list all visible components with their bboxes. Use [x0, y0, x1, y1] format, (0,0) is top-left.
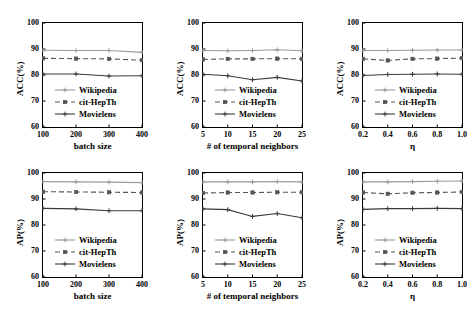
- legend-label: Wikipedia: [399, 235, 437, 245]
- legend-item-cit-hepth: cit-HepTh: [374, 246, 437, 258]
- legend-label: cit-HepTh: [399, 247, 436, 257]
- y-tick-label: 90: [338, 194, 359, 203]
- figure-canvas: 10090807060100200300400batch sizeACC(%)W…: [0, 0, 474, 314]
- x-tick-label: 1.0: [448, 280, 474, 289]
- subplot-ap-eta: 100908070600.20.40.60.81.0ηAP(%)Wikipedi…: [0, 0, 474, 314]
- legend: Wikipediacit-HepThMovielens: [374, 234, 437, 270]
- legend-item-wikipedia: Wikipedia: [374, 234, 437, 246]
- legend-label: Movielens: [399, 259, 436, 269]
- x-axis-label: η: [342, 291, 474, 301]
- y-tick-label: 70: [338, 246, 359, 255]
- legend-item-movielens: Movielens: [374, 258, 437, 270]
- y-tick-label: 100: [338, 168, 359, 177]
- legend-swatch-movielens: [374, 259, 396, 269]
- y-axis-label: AP(%): [335, 219, 345, 246]
- legend-swatch-cit-hepth: [374, 247, 396, 257]
- legend-swatch-wikipedia: [374, 235, 396, 245]
